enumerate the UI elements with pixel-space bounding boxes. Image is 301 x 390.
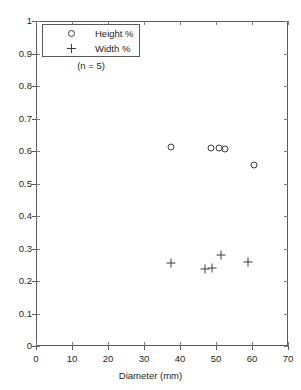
y-tick-label: 0.5: [19, 179, 32, 189]
legend: Height % Width %: [42, 24, 140, 57]
y-tick-label: 0: [27, 341, 32, 351]
y-tick-mark-inner-right: [284, 54, 288, 55]
legend-label-height: Height %: [95, 29, 134, 39]
x-tick-mark: [288, 346, 289, 350]
y-tick-label: 0.7: [19, 114, 32, 124]
y-tick-mark-inner-right: [284, 86, 288, 87]
x-axis-title: Diameter (mm): [0, 370, 301, 381]
y-tick-mark-inner: [36, 151, 40, 152]
x-tick-label: 10: [67, 354, 78, 364]
y-tick-mark-inner-right: [284, 281, 288, 282]
data-point-plus: [217, 251, 226, 260]
y-tick-label: 0.2: [19, 276, 32, 286]
data-point-plus: [167, 259, 176, 268]
data-point-plus: [208, 264, 217, 273]
y-tick-label: 0.6: [19, 146, 32, 156]
x-tick-label: 20: [103, 354, 114, 364]
y-tick-mark-inner-right: [284, 151, 288, 152]
sample-size-annotation: (n = 5): [42, 60, 140, 71]
x-tick-mark: [216, 346, 217, 350]
y-tick-mark-inner-right: [284, 314, 288, 315]
y-tick-label: 0.9: [19, 49, 32, 59]
y-tick-mark-inner: [36, 314, 40, 315]
data-point-circle: [250, 161, 257, 168]
y-tick-mark-inner: [36, 119, 40, 120]
y-tick-label: 0.8: [19, 81, 32, 91]
x-tick-label: 50: [211, 354, 222, 364]
x-tick-mark: [180, 346, 181, 350]
x-tick-mark-inner-bottom: [252, 342, 253, 346]
x-tick-mark-inner-bottom: [144, 342, 145, 346]
legend-label-width: Width %: [95, 44, 130, 54]
x-tick-mark: [108, 346, 109, 350]
data-point-circle: [168, 144, 175, 151]
y-tick-label: 0.1: [19, 309, 32, 319]
y-tick-mark-inner: [36, 54, 40, 55]
x-tick-mark-inner-top: [36, 21, 37, 25]
data-point-circle: [222, 146, 229, 153]
x-tick-mark-inner-bottom: [108, 342, 109, 346]
x-tick-mark-inner-bottom: [180, 342, 181, 346]
y-tick-mark-inner: [36, 184, 40, 185]
x-tick-mark-inner-top: [252, 21, 253, 25]
x-tick-mark: [36, 346, 37, 350]
data-point-plus: [244, 258, 253, 267]
y-tick-label: 1: [27, 16, 32, 26]
y-tick-mark-inner-right: [284, 119, 288, 120]
x-tick-mark-inner-top: [144, 21, 145, 25]
x-tick-mark-inner-bottom: [72, 342, 73, 346]
circle-marker-icon: [65, 28, 77, 40]
x-tick-mark: [144, 346, 145, 350]
x-tick-mark-inner-top: [180, 21, 181, 25]
y-tick-mark-inner-right: [284, 184, 288, 185]
y-tick-mark-inner: [36, 249, 40, 250]
x-tick-label: 30: [139, 354, 150, 364]
y-tick-label: 0.3: [19, 244, 32, 254]
y-tick-mark-inner: [36, 216, 40, 217]
legend-entry-height: Height %: [43, 26, 139, 41]
plus-marker-icon: [65, 43, 77, 55]
x-tick-label: 70: [283, 354, 294, 364]
x-tick-mark-inner-bottom: [36, 342, 37, 346]
y-tick-mark-inner: [36, 86, 40, 87]
x-tick-mark-inner-bottom: [216, 342, 217, 346]
x-tick-mark: [252, 346, 253, 350]
y-tick-mark-inner: [36, 281, 40, 282]
x-tick-label: 0: [33, 354, 38, 364]
x-tick-mark-inner-bottom: [288, 342, 289, 346]
data-point-circle: [207, 144, 214, 151]
x-tick-mark-inner-top: [216, 21, 217, 25]
x-tick-label: 40: [175, 354, 186, 364]
legend-entry-width: Width %: [43, 41, 139, 56]
x-tick-label: 60: [247, 354, 258, 364]
y-tick-label: 0.4: [19, 211, 32, 221]
x-tick-mark-inner-top: [288, 21, 289, 25]
x-tick-mark: [72, 346, 73, 350]
scatter-chart-figure: 00.10.20.30.40.50.60.70.80.91 0102030405…: [0, 0, 301, 390]
y-tick-mark-inner-right: [284, 216, 288, 217]
y-tick-mark-inner-right: [284, 249, 288, 250]
